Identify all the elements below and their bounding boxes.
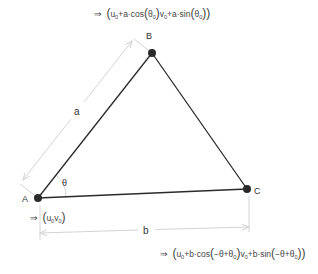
vertex-c-point [243, 185, 251, 193]
dimension-label-a: a [74, 106, 80, 117]
vertex-a-label: A [22, 194, 28, 204]
dimension-line-a-upper [84, 41, 132, 102]
angle-label-theta: θ [62, 178, 67, 188]
dimension-a: a [20, 39, 152, 198]
triangle-diagram: a b θ A B C ⇒ (u0+a·cos(θ0)v0+a·sin(θ0))… [0, 0, 318, 274]
vertex-b-label: B [146, 31, 152, 41]
formula-b: ⇒ (u0+a·cos(θ0)v0+a·sin(θ0)) [94, 6, 210, 20]
dimension-line-b-left [40, 230, 138, 233]
dimension-line-a-lower [23, 119, 71, 180]
formula-c: ⇒ (u0+b·cos(−θ+θ0)v0+b·sin(−θ+θ0)) [160, 246, 306, 260]
dimension-line-b-right [155, 227, 249, 230]
formula-a: ⇒ (u0v0) [30, 210, 65, 224]
vertex-b-point [148, 49, 156, 57]
edge-bc [152, 53, 247, 189]
dimension-b: b [40, 196, 249, 240]
vertex-c-label: C [254, 186, 261, 196]
edge-ac [38, 189, 247, 198]
dimension-label-b: b [143, 225, 149, 236]
edge-ab [38, 53, 152, 198]
vertex-a-point [34, 194, 42, 202]
